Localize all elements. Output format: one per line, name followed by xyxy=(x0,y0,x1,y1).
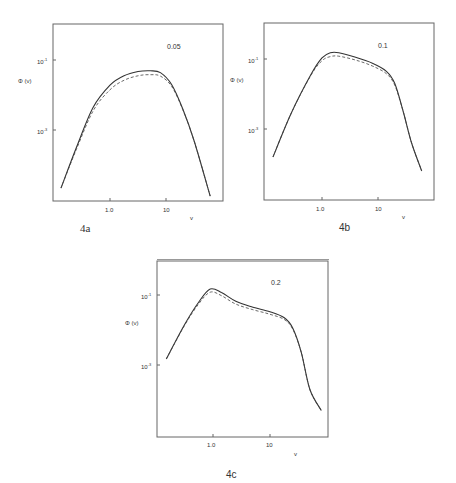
ytick-label-3: 10-3 xyxy=(141,362,151,370)
curve-dashed xyxy=(273,56,422,171)
xtick-label-10: 10 xyxy=(163,207,170,213)
curve-dashed xyxy=(61,75,210,196)
curve-dashed xyxy=(166,292,321,411)
plot-area-4a xyxy=(0,0,240,245)
xtick-label-1: 1.0 xyxy=(207,442,215,448)
figure-caption: 4a xyxy=(80,222,90,234)
x-axis-label: v xyxy=(294,451,297,457)
y-axis-label: Φ (v) xyxy=(18,78,31,84)
xtick-label-10: 10 xyxy=(266,442,273,448)
parameter-label: 0.2 xyxy=(271,279,281,286)
parameter-label: 0.05 xyxy=(167,43,181,50)
y-axis-label: Φ (v) xyxy=(230,77,243,83)
figure-4c: 0.2 Φ (v) 10-1 10-3 1.0 10 v 4c xyxy=(120,250,356,483)
figure-4b: 0.1 Φ (v) 10-1 10-3 1.0 10 v 4b xyxy=(230,0,456,245)
axes-frame xyxy=(157,261,328,437)
axes-frame xyxy=(53,24,223,201)
ytick-label-3: 10-3 xyxy=(248,126,258,134)
plot-area-4b xyxy=(230,0,456,245)
figure-caption: 4c xyxy=(226,469,237,480)
y-axis-label: Φ (v) xyxy=(125,320,138,326)
figure-4a: 0.05 Φ (v) 10-1 10-3 1.0 10 v 4a xyxy=(0,0,240,245)
ytick-label-1: 10-1 xyxy=(37,57,47,65)
axes-frame xyxy=(264,23,434,200)
x-axis-label: v xyxy=(402,214,405,220)
figure-caption: 4b xyxy=(339,222,350,233)
xtick-label-1: 1.0 xyxy=(316,206,324,212)
plot-area-4c xyxy=(120,250,356,483)
curve-solid xyxy=(273,52,422,171)
ytick-label-1: 10-1 xyxy=(248,56,258,64)
curve-solid xyxy=(61,71,210,196)
xtick-label-10: 10 xyxy=(375,206,382,212)
parameter-label: 0.1 xyxy=(378,42,388,49)
ytick-label-3: 10-3 xyxy=(37,127,47,135)
x-axis-label: v xyxy=(190,215,193,221)
xtick-label-1: 1.0 xyxy=(105,207,113,213)
ytick-label-1: 10-1 xyxy=(141,292,151,300)
